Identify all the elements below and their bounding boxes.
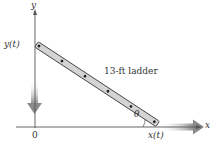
ladder-diagram: y y(t) 13-ft ladder θ 0 x(t) x [0, 0, 218, 144]
y-of-t-label: y(t) [4, 40, 20, 49]
origin-label: 0 [32, 131, 38, 140]
ladder-label: 13-ft ladder [104, 67, 158, 76]
x-of-t-label: x(t) [148, 131, 164, 140]
ladder [35, 42, 160, 127]
x-axis-label: x [205, 121, 210, 130]
y-axis-label: y [31, 1, 36, 10]
down-motion-arrow-icon [27, 80, 42, 114]
theta-label: θ [134, 110, 139, 119]
